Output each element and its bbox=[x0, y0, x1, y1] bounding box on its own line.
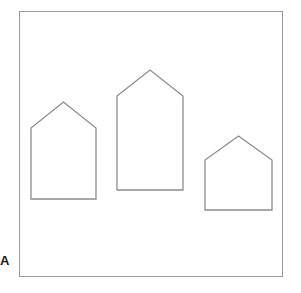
outer-frame-border bbox=[20, 12, 283, 277]
panel-label-a: A bbox=[0, 252, 12, 270]
figure-panel: A bbox=[0, 0, 301, 293]
figure-canvas bbox=[0, 0, 301, 293]
